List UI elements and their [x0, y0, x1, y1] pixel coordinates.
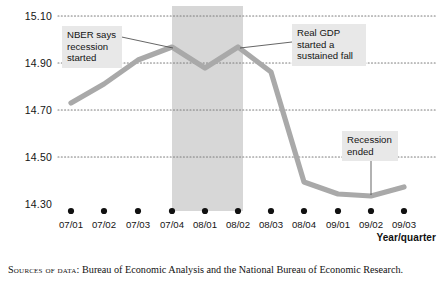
annotation-nber-recession-started: NBER says recession started	[62, 26, 122, 68]
axis-marker-dot	[169, 208, 175, 214]
annotation-real-gdp-sustained-fall: Real GDP started a sustained fall	[292, 24, 366, 66]
y-tick-label-3: 14.50	[8, 151, 52, 163]
annotation-recession-ended: Recession ended	[342, 131, 398, 161]
plot-area: 15.10 14.90 14.70 14.50 14.30 07/01 07/0…	[0, 0, 442, 250]
axis-marker-dot	[101, 208, 107, 214]
axis-marker-dot	[335, 208, 341, 214]
y-tick-label-0: 15.10	[8, 10, 52, 22]
leader-line-nber	[117, 36, 173, 48]
axis-marker-dot	[235, 208, 241, 214]
axis-marker-dot	[368, 208, 374, 214]
x-axis-markers	[68, 208, 407, 214]
source-note-prefix: Sources of data:	[8, 264, 79, 275]
source-note: Sources of data: Bureau of Economic Anal…	[8, 264, 438, 275]
axis-marker-dot	[202, 208, 208, 214]
recession-shaded-band	[172, 6, 243, 211]
y-tick-label-4: 14.30	[8, 198, 52, 210]
x-tick-label-10: 09/03	[384, 219, 424, 230]
axis-marker-dot	[268, 208, 274, 214]
y-tick-label-1: 14.90	[8, 57, 52, 69]
axis-marker-dot	[68, 208, 74, 214]
source-note-text: Bureau of Economic Analysis and the Nati…	[82, 264, 403, 275]
axis-marker-dot	[401, 208, 407, 214]
chart-figure: 15.10 14.90 14.70 14.50 14.30 07/01 07/0…	[0, 0, 442, 288]
axis-marker-dot	[301, 208, 307, 214]
x-axis-title: Year/quarter	[376, 232, 436, 243]
y-tick-label-2: 14.70	[8, 104, 52, 116]
leader-line-realgdp	[240, 42, 292, 48]
axis-marker-dot	[135, 208, 141, 214]
